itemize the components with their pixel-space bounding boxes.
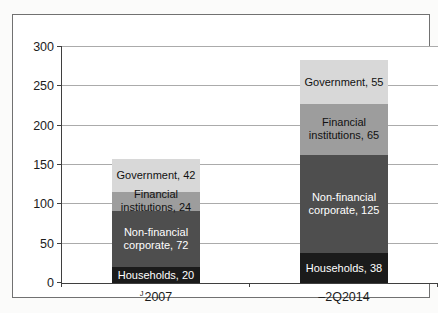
segment-non-financial-corporate-2007: Non-financial corporate, 72 (112, 211, 200, 268)
segment-label: Government, 55 (301, 76, 387, 89)
figure: 050100150200250300Government, 42Financia… (0, 0, 438, 313)
y-axis-tick-200 (57, 125, 62, 126)
segment-financial-institutions-2Q2014: Financial institutions, 65 (300, 104, 388, 155)
x-axis-label-text: 2007 (144, 290, 172, 304)
y-axis-label-150: 150 (33, 158, 54, 172)
y-axis-label-250: 250 (33, 79, 54, 93)
x-axis-label-2Q2014: –2Q2014 (318, 290, 369, 304)
x-axis-tick-0 (61, 283, 62, 287)
segment-label: Financial institutions, 65 (301, 116, 387, 142)
y-axis-tick-100 (57, 203, 62, 204)
x-axis-label-prefix: – (318, 290, 325, 304)
segment-households-2Q2014: Households, 38 (300, 253, 388, 283)
segment-label: Households, 20 (113, 269, 199, 282)
x-axis-label-prefix: J (140, 289, 144, 298)
segment-non-financial-corporate-2Q2014: Non-financial corporate, 125 (300, 155, 388, 253)
bar-2007: Government, 42Financial institutions, 24… (112, 159, 200, 283)
bar-2Q2014: Government, 55Financial institutions, 65… (300, 60, 388, 283)
segment-financial-institutions-2007: Financial institutions, 24 (112, 192, 200, 211)
plot-area: 050100150200250300Government, 42Financia… (61, 46, 438, 284)
x-axis-label-2007: J2007 (140, 290, 173, 304)
y-axis-label-100: 100 (33, 197, 54, 211)
gridline-300 (62, 46, 438, 47)
y-axis-label-50: 50 (40, 237, 54, 251)
segment-label: Households, 38 (301, 262, 387, 275)
y-axis-tick-300 (57, 46, 62, 47)
y-axis-label-0: 0 (47, 276, 54, 290)
figure-border: 050100150200250300Government, 42Financia… (12, 14, 430, 298)
segment-label: Non-financial corporate, 72 (113, 226, 199, 252)
y-axis-label-300: 300 (33, 40, 54, 54)
segment-households-2007: Households, 20 (112, 267, 200, 283)
y-axis-label-200: 200 (33, 119, 54, 133)
y-axis-tick-150 (57, 164, 62, 165)
x-axis-label-text: 2Q2014 (325, 290, 369, 304)
segment-label: Government, 42 (113, 169, 199, 182)
segment-government-2Q2014: Government, 55 (300, 60, 388, 103)
segment-label: Non-financial corporate, 125 (301, 191, 387, 217)
segment-government-2007: Government, 42 (112, 159, 200, 192)
y-axis-tick-250 (57, 85, 62, 86)
y-axis-tick-50 (57, 243, 62, 244)
x-axis-tick-1 (249, 283, 250, 287)
